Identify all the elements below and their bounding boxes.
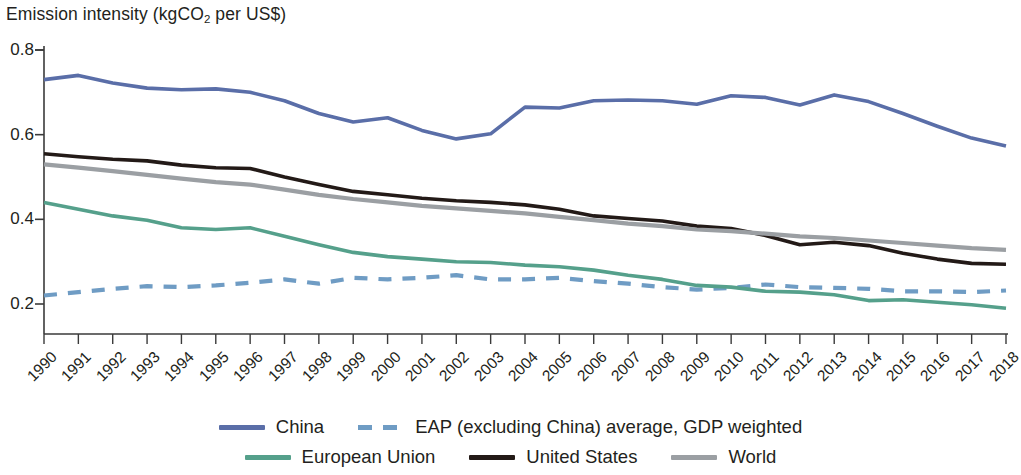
series-line-european-union — [44, 202, 1006, 308]
legend-item-european-union[interactable]: European Union — [245, 448, 436, 467]
emission-intensity-chart: Emission intensity (kgCO2 per US$) 0.80.… — [0, 0, 1021, 475]
legend-swatch-icon — [358, 425, 404, 430]
legend-swatch-icon — [671, 455, 717, 460]
legend-swatch-icon — [245, 455, 291, 460]
legend-item-eap[interactable]: EAP (excluding China) average, GDP weigh… — [358, 418, 802, 437]
y-tick-label-0: 0.8 — [0, 40, 34, 60]
legend-item-china[interactable]: China — [219, 418, 324, 437]
legend-label: China — [276, 418, 324, 437]
chart-legend: ChinaEAP (excluding China) average, GDP … — [0, 412, 1021, 475]
series-line-united-states — [44, 154, 1006, 265]
y-tick-label-1: 0.6 — [0, 125, 34, 145]
series-line-eap — [44, 275, 1006, 295]
legend-item-world[interactable]: World — [671, 448, 776, 467]
legend-label: United States — [526, 448, 637, 467]
legend-row-1: ChinaEAP (excluding China) average, GDP … — [0, 412, 1021, 442]
y-tick-label-2: 0.4 — [0, 209, 34, 229]
legend-label: European Union — [302, 448, 436, 467]
series-line-world — [44, 164, 1006, 250]
legend-label: World — [728, 448, 776, 467]
series-line-china — [44, 75, 1006, 146]
legend-swatch-icon — [469, 455, 515, 460]
legend-item-united-states[interactable]: United States — [469, 448, 637, 467]
legend-label: EAP (excluding China) average, GDP weigh… — [415, 418, 802, 437]
legend-row-2: European UnionUnited StatesWorld — [0, 442, 1021, 472]
legend-swatch-icon — [219, 425, 265, 430]
y-tick-label-3: 0.2 — [0, 294, 34, 314]
